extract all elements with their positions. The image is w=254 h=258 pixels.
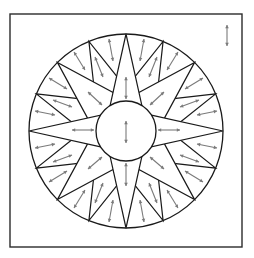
compass-diagram	[0, 0, 254, 258]
double-arrow-icon	[225, 25, 229, 46]
